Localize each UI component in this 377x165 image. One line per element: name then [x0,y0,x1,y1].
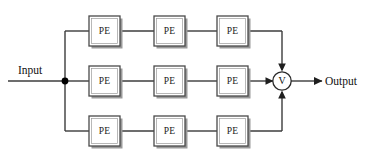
fusion-node[interactable]: V [273,72,291,90]
pe-block-label: PE [227,26,239,36]
bottom-branch-blocks: PE PE PE [89,116,251,149]
input-fanout-junction-dot [62,78,69,85]
arrow-to-output-icon [314,77,323,85]
pe-block-label: PE [164,126,176,136]
arrow-down-into-merge-icon [278,64,286,72]
pe-block-label: PE [99,76,111,86]
middle-branch-blocks: PE PE PE [89,66,251,99]
output-label: Output [325,75,358,88]
diagram-canvas: PE PE PE PE PE PE [0,0,377,165]
pe-block-label: PE [164,76,176,86]
pe-block-label: PE [99,26,111,36]
top-branch-blocks: PE PE PE [89,16,251,49]
block-diagram-svg: PE PE PE PE PE PE [0,0,377,165]
input-label: Input [18,64,43,77]
pe-block-label: PE [227,76,239,86]
pe-block-label: PE [164,26,176,36]
arrow-up-into-merge-icon [278,91,286,99]
pe-block-label: PE [227,126,239,136]
fusion-node-label: V [278,75,286,86]
pe-block-label: PE [99,126,111,136]
